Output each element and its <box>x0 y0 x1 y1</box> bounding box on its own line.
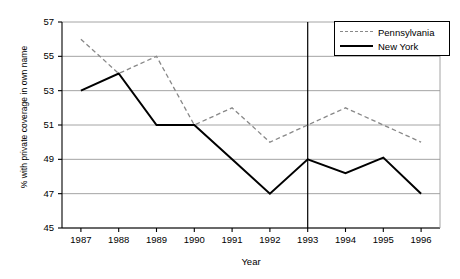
y-tick-label: 53 <box>28 86 54 96</box>
y-tick-label: 49 <box>28 154 54 164</box>
legend: Pennsylvania New York <box>334 21 450 56</box>
y-tick-label: 47 <box>28 189 54 199</box>
y-tick-label: 45 <box>28 223 54 233</box>
x-tick-marks <box>81 228 421 232</box>
y-tick-label: 55 <box>28 51 54 61</box>
line-chart: % with private coverage in own name 4547… <box>0 0 460 279</box>
y-tick-label: 51 <box>28 120 54 130</box>
legend-swatch-dashed-icon <box>340 27 373 37</box>
legend-item-new-york: New York <box>340 39 418 53</box>
data-series <box>81 39 421 194</box>
x-axis-title: Year <box>62 256 440 267</box>
legend-label: New York <box>378 41 418 52</box>
legend-item-pennsylvania: Pennsylvania <box>340 25 435 39</box>
x-tick-label: 1996 <box>398 234 444 245</box>
y-tick-marks <box>58 22 62 228</box>
series-line <box>81 74 421 194</box>
y-tick-label: 57 <box>28 17 54 27</box>
legend-swatch-solid-icon <box>340 41 373 51</box>
legend-label: Pennsylvania <box>378 27 435 38</box>
